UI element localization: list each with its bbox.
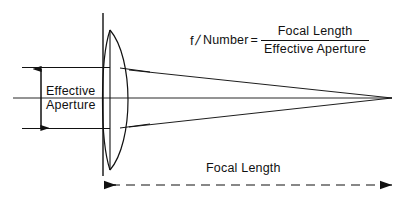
f-number-formula-left-side: f / Number = (190, 32, 261, 48)
effective-aperture-label-line2: Aperture (46, 98, 96, 112)
f-symbol: f (190, 33, 194, 48)
number-word: Number (203, 33, 249, 47)
converging-ray-upper (129, 70, 392, 98)
effective-aperture-label-line1: Effective (46, 84, 96, 98)
ray-stub-lower (120, 124, 150, 128)
lens-right-surface (110, 30, 128, 170)
ray-stub-upper (120, 68, 150, 72)
formula-fraction: Focal Length Effective Aperture (261, 24, 369, 56)
formula-numerator: Focal Length (275, 24, 356, 40)
optics-diagram: Effective Aperture Focal Length f / Numb… (0, 0, 415, 208)
slash-icon: / (194, 32, 202, 48)
equals-sign: = (251, 33, 259, 47)
f-number-formula: f / Number = Focal Length Effective Aper… (190, 24, 369, 56)
effective-aperture-label: Effective Aperture (46, 84, 96, 112)
focal-length-label: Focal Length (206, 161, 281, 175)
formula-denominator: Effective Aperture (261, 40, 369, 57)
converging-ray-lower (129, 98, 392, 127)
